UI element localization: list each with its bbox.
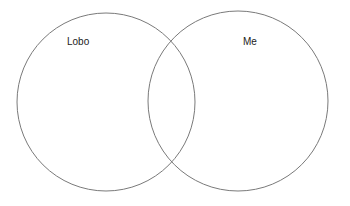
set-circle-me	[148, 11, 328, 191]
venn-diagram: Lobo Me	[0, 0, 350, 206]
set-label-me: Me	[243, 36, 257, 47]
set-label-lobo: Lobo	[67, 36, 90, 47]
set-circle-lobo	[17, 13, 195, 191]
